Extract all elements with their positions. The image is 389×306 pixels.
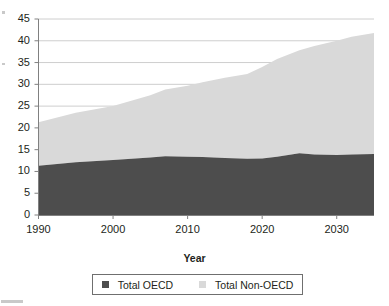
x-axis-title: Year bbox=[0, 252, 389, 264]
y-axis-tick-label: 10 bbox=[4, 165, 30, 176]
y-axis-tick-label: 30 bbox=[4, 78, 30, 89]
legend-item-total-non-oecd[interactable]: Total Non-OECD bbox=[199, 279, 293, 291]
area-series-group bbox=[39, 33, 375, 215]
x-axis-tick-label: 2030 bbox=[317, 224, 357, 235]
x-axis-tick-label: 2000 bbox=[93, 224, 133, 235]
legend-swatch-total-oecd bbox=[102, 281, 109, 288]
x-axis-tick-label: 1990 bbox=[19, 224, 59, 235]
legend-swatch-total-non-oecd bbox=[199, 281, 206, 288]
y-axis-tick-label: 15 bbox=[4, 144, 30, 155]
y-axis-tick-label: 0 bbox=[4, 209, 30, 220]
x-axis-tick-label: 2020 bbox=[242, 224, 282, 235]
legend-label-total-non-oecd: Total Non-OECD bbox=[215, 279, 293, 291]
y-axis-tick-label: 35 bbox=[4, 57, 30, 68]
y-axis-tick-label: 5 bbox=[4, 187, 30, 198]
y-axis-tick-label: 25 bbox=[4, 100, 30, 111]
y-axis-tick-label: 40 bbox=[4, 35, 30, 46]
legend-item-total-oecd[interactable]: Total OECD bbox=[102, 279, 173, 291]
chart-container: 454035302520151050 19902000201020202030 … bbox=[0, 0, 389, 306]
x-axis-tick-label: 2010 bbox=[168, 224, 208, 235]
y-axis-tick-label: 20 bbox=[4, 122, 30, 133]
y-axis-tick-label: 45 bbox=[4, 13, 30, 24]
legend-label-total-oecd: Total OECD bbox=[118, 279, 173, 291]
chart-legend: Total OECD Total Non-OECD bbox=[92, 274, 303, 295]
